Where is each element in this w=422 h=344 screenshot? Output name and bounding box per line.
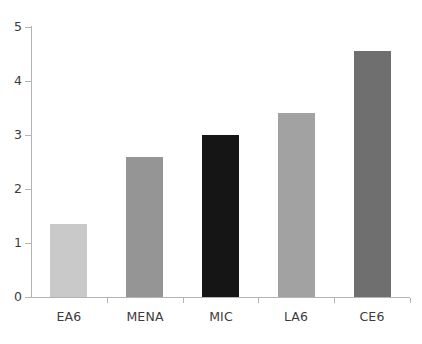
x-axis-tick [183,298,184,303]
bar-ce6 [354,51,391,297]
bar-mena [126,157,163,297]
bar-series [0,0,422,297]
bar-la6 [278,113,315,297]
x-axis-tick [107,298,108,303]
y-axis-tick [25,297,31,298]
x-axis-category-labels: EA6MENAMICLA6CE6 [0,311,422,333]
x-axis-label-la6: LA6 [284,311,308,324]
x-axis-label-mena: MENA [126,311,163,324]
bar-chart: 012345 EA6MENAMICLA6CE6 [0,0,422,344]
bar-mic [202,135,239,297]
x-axis-label-ea6: EA6 [57,311,82,324]
x-axis-label-ce6: CE6 [359,311,384,324]
x-axis-tick [334,298,335,303]
x-axis-label-mic: MIC [209,311,233,324]
x-axis-tick [258,298,259,303]
bar-ea6 [50,224,87,297]
x-axis-line [31,297,410,298]
x-axis-tick [410,298,411,303]
